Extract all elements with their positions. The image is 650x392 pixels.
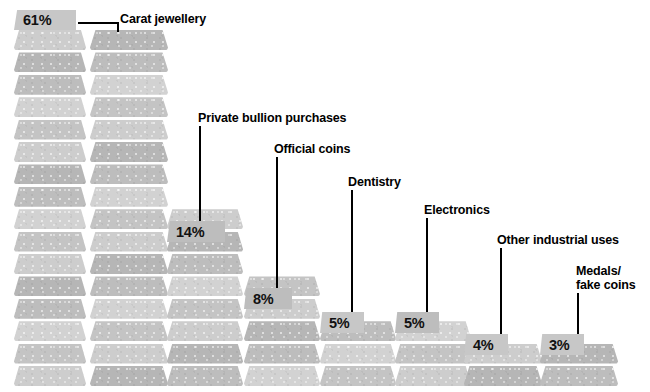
gold-bar-shape (14, 232, 86, 252)
gold-bar-shape (167, 344, 243, 364)
gold-bar-shape (395, 366, 471, 386)
gold-bar-shape (90, 120, 168, 140)
gold-bar-shape (90, 232, 168, 252)
gold-bar-shape (90, 276, 168, 296)
gold-bar (14, 187, 86, 207)
gold-bar (244, 366, 320, 386)
gold-bar-shape (14, 75, 86, 95)
gold-bar (320, 344, 396, 364)
gold-bar (90, 276, 168, 296)
gold-bar (14, 299, 86, 319)
gold-bar-shape (14, 366, 86, 386)
leader-medals (577, 293, 579, 335)
gold-bar (167, 344, 243, 364)
callout-medals: Medals/ fake coins (576, 265, 636, 292)
gold-bar-shape (90, 209, 168, 229)
gold-bar-shape (14, 30, 86, 50)
gold-bar (14, 321, 86, 341)
gold-bar-shape (14, 187, 86, 207)
gold-bar-shape (90, 299, 168, 319)
gold-bar-shape (14, 209, 86, 229)
leader-dentistry (351, 190, 353, 313)
gold-bar-shape (14, 276, 86, 296)
gold-bar-shape (244, 321, 320, 341)
gold-bar (90, 209, 168, 229)
gold-bar-shape (14, 97, 86, 117)
gold-bar-shape (464, 366, 542, 386)
gold-bar (90, 120, 168, 140)
gold-bar (244, 321, 320, 341)
gold-bar-shape (14, 142, 86, 162)
callout-private-bullion: Private bullion purchases (198, 112, 346, 126)
gold-bar (90, 366, 168, 386)
gold-bar-shape (14, 321, 86, 341)
leader-private-bullion (199, 126, 201, 222)
gold-bar (167, 366, 243, 386)
gold-bar (167, 299, 243, 319)
gold-bar (90, 75, 168, 95)
gold-bar-shape (540, 366, 618, 386)
gold-bar (464, 366, 542, 386)
gold-bar (14, 366, 86, 386)
leader-official-coins (276, 157, 278, 289)
gold-bar (14, 209, 86, 229)
leader-other-industrial (500, 248, 502, 335)
gold-bar-shape (14, 254, 86, 274)
gold-bar-shape (14, 52, 86, 72)
percentage-badge-col-7: 4% (464, 334, 508, 355)
gold-bar-shape (90, 366, 168, 386)
gold-bar (14, 344, 86, 364)
gold-bar (14, 164, 86, 184)
gold-bar (14, 75, 86, 95)
gold-bar-shape (167, 366, 243, 386)
gold-bar-shape (14, 164, 86, 184)
gold-bar (395, 366, 471, 386)
callout-other-industrial: Other industrial uses (497, 234, 619, 248)
gold-bar (244, 344, 320, 364)
gold-bar-shape (90, 344, 168, 364)
gold-bar-shape (167, 299, 243, 319)
gold-bar (14, 254, 86, 274)
percentage-badge-col-6: 5% (395, 312, 439, 333)
gold-bar (90, 52, 168, 72)
gold-bar-shape (90, 164, 168, 184)
gold-bar-shape (14, 344, 86, 364)
gold-bar-shape (167, 276, 243, 296)
gold-bar-shape (90, 321, 168, 341)
gold-bar (167, 254, 243, 274)
gold-bar (14, 232, 86, 252)
gold-bar (90, 187, 168, 207)
gold-bar (540, 366, 618, 386)
percentage-badge-col-5: 5% (320, 312, 364, 333)
gold-bar-shape (90, 75, 168, 95)
gold-bar-shape (320, 366, 396, 386)
gold-bar-shape (14, 299, 86, 319)
callout-official-coins: Official coins (274, 143, 350, 157)
gold-bar-shape (244, 344, 320, 364)
callout-carat-jewellery: Carat jewellery (120, 13, 206, 27)
gold-bar-shape (90, 254, 168, 274)
leader-carat-jewellery (78, 22, 118, 24)
gold-bar (14, 52, 86, 72)
gold-bar (14, 120, 86, 140)
gold-bar (90, 254, 168, 274)
percentage-badge-col-4: 8% (244, 288, 292, 309)
gold-bar (14, 276, 86, 296)
gold-bar (167, 321, 243, 341)
gold-bar (320, 366, 396, 386)
gold-bar (14, 142, 86, 162)
leader-carat-tick (117, 22, 119, 32)
callout-electronics: Electronics (424, 204, 490, 218)
gold-bar (167, 276, 243, 296)
gold-bar (395, 344, 471, 364)
gold-bar (90, 321, 168, 341)
gold-bar (90, 164, 168, 184)
gold-bar-shape (395, 344, 471, 364)
percentage-badge-col-1: 61% (14, 10, 76, 30)
leader-electronics (426, 218, 428, 313)
gold-bar (90, 142, 168, 162)
gold-bar (90, 97, 168, 117)
percentage-badge-col-8: 3% (540, 334, 584, 355)
gold-bar (90, 232, 168, 252)
gold-bar (90, 344, 168, 364)
